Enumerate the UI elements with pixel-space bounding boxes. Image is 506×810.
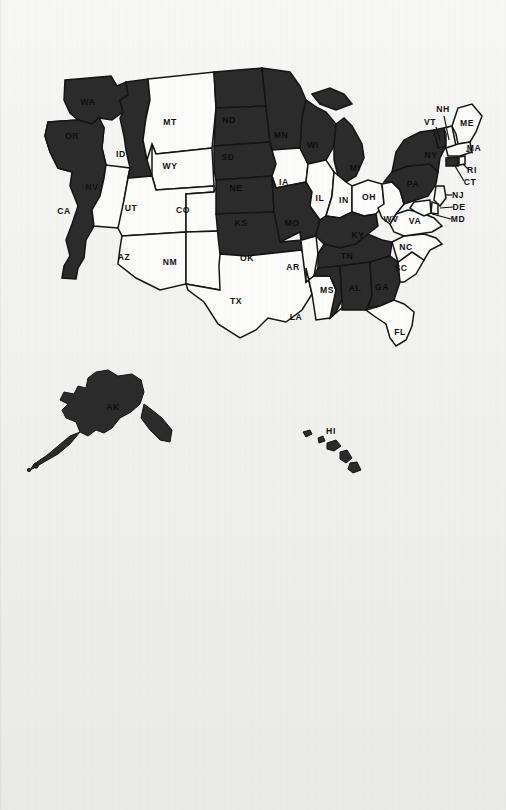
label-OR: OR — [65, 131, 79, 141]
label-AK: AK — [106, 402, 120, 412]
label-OK: OK — [240, 253, 254, 263]
label-WV: WV — [383, 214, 398, 224]
state-HI — [303, 430, 361, 473]
label-OH: OH — [362, 192, 376, 202]
label-NE: NE — [229, 183, 242, 193]
state-RI[interactable] — [459, 156, 465, 165]
label-IA: IA — [279, 177, 289, 187]
label-NM: NM — [163, 257, 178, 267]
label-AR: AR — [286, 262, 300, 272]
label-ID: ID — [116, 149, 126, 159]
label-NV: NV — [85, 182, 98, 192]
state-WA[interactable] — [64, 76, 128, 124]
leader-CT — [455, 166, 464, 181]
label-NC: NC — [399, 242, 413, 252]
label-MD: MD — [451, 214, 466, 224]
us-map-svg: WA OR CA NV ID MT WY UT CO AZ NM ND SD N… — [0, 0, 506, 500]
aleutian-island-1 — [34, 464, 38, 468]
label-TN: TN — [341, 251, 354, 261]
label-MS: MS — [320, 285, 334, 295]
label-CT: CT — [464, 177, 477, 187]
label-KS: KS — [234, 218, 247, 228]
label-MI: MI — [350, 163, 361, 173]
us-map-figure: WA OR CA NV ID MT WY UT CO AZ NM ND SD N… — [0, 0, 506, 500]
label-VT: VT — [424, 117, 436, 127]
label-IL: IL — [316, 193, 325, 203]
label-WY: WY — [162, 161, 177, 171]
label-NY: NY — [424, 150, 437, 160]
label-DE: DE — [452, 202, 465, 212]
label-AZ: AZ — [118, 252, 131, 262]
label-PA: PA — [407, 179, 420, 189]
blank-lower-page-area — [0, 500, 506, 810]
label-CO: CO — [176, 205, 190, 215]
label-CA: CA — [57, 206, 71, 216]
inset-alaska[interactable] — [27, 370, 172, 472]
state-ND[interactable] — [214, 68, 266, 108]
label-NH: NH — [436, 104, 450, 114]
state-WI[interactable] — [300, 100, 336, 164]
label-LA: LA — [290, 312, 303, 322]
label-GA: GA — [375, 282, 389, 292]
label-KY: KY — [351, 230, 364, 240]
state-MT[interactable] — [143, 72, 216, 160]
label-NJ: NJ — [452, 190, 464, 200]
state-AK — [30, 370, 172, 470]
label-MO: MO — [284, 218, 299, 228]
inset-hawaii[interactable] — [303, 430, 361, 473]
state-CA[interactable] — [45, 118, 106, 279]
label-VA: VA — [409, 216, 422, 226]
label-ND: ND — [222, 115, 236, 125]
label-MN: MN — [274, 130, 289, 140]
label-FL: FL — [394, 327, 406, 337]
label-SD: SD — [221, 152, 234, 162]
label-ME: ME — [460, 118, 474, 128]
aleutian-island-2 — [27, 468, 30, 471]
scanned-page: WA OR CA NV ID MT WY UT CO AZ NM ND SD N… — [0, 0, 506, 810]
label-HI: HI — [326, 426, 336, 436]
label-MT: MT — [163, 117, 177, 127]
label-UT: UT — [125, 203, 138, 213]
label-IN: IN — [339, 195, 349, 205]
state-CT[interactable] — [446, 157, 458, 166]
label-WA: WA — [80, 97, 95, 107]
state-DE[interactable] — [431, 202, 438, 214]
state-SD[interactable] — [214, 106, 270, 146]
label-AL: AL — [349, 283, 362, 293]
label-TX: TX — [230, 296, 242, 306]
label-SC: SC — [394, 263, 407, 273]
leader-DE — [440, 207, 453, 208]
state-KS[interactable] — [216, 176, 274, 214]
label-WI: WI — [307, 140, 319, 150]
